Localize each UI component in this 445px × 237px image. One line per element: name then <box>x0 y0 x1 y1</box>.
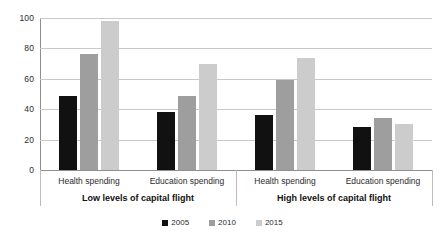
y-tick-label-0: 0 <box>4 166 34 175</box>
y-tick-label-40: 40 <box>4 105 34 114</box>
grouped-bar-chart: 100 80 60 40 20 0 Health spending Educat… <box>0 0 445 237</box>
category-label-education-high: Education spending <box>334 172 432 190</box>
chart-legend: 200520102015 <box>0 216 445 230</box>
y-tick-label-80: 80 <box>4 44 34 53</box>
legend-item-2005[interactable]: 2005 <box>162 219 189 227</box>
bar-2010 <box>374 118 392 170</box>
legend-label: 2010 <box>218 219 236 227</box>
section-labels: Low levels of capital flight High levels… <box>40 190 432 206</box>
category-label-health-high: Health spending <box>236 172 334 190</box>
bar-group <box>40 18 138 170</box>
bar-group <box>138 18 236 170</box>
bar-2010 <box>178 96 196 170</box>
legend-item-2015[interactable]: 2015 <box>256 219 283 227</box>
y-tick-label-100: 100 <box>4 14 34 23</box>
y-tick-label-60: 60 <box>4 75 34 84</box>
bar-set <box>138 18 236 170</box>
bar-2005 <box>353 127 371 170</box>
y-tick-label-20: 20 <box>4 135 34 144</box>
bar-2010 <box>276 80 294 170</box>
bar-2015 <box>297 58 315 170</box>
category-label-health-low: Health spending <box>40 172 138 190</box>
bar-set <box>334 18 432 170</box>
bar-set <box>40 18 138 170</box>
bar-groups <box>40 18 432 170</box>
legend-swatch-icon <box>209 220 215 226</box>
section-label-high-capital-flight: High levels of capital flight <box>236 190 432 206</box>
bar-set <box>236 18 334 170</box>
legend-label: 2005 <box>171 219 189 227</box>
bar-group <box>236 18 334 170</box>
category-label-education-low: Education spending <box>138 172 236 190</box>
bar-2005 <box>255 115 273 170</box>
bar-group <box>334 18 432 170</box>
bar-2005 <box>157 112 175 170</box>
legend-item-2010[interactable]: 2010 <box>209 219 236 227</box>
plot-area <box>40 18 432 170</box>
section-label-low-capital-flight: Low levels of capital flight <box>40 190 236 206</box>
bar-2010 <box>80 54 98 170</box>
bar-2005 <box>59 96 77 170</box>
y-axis-labels: 100 80 60 40 20 0 <box>0 18 34 170</box>
category-labels: Health spending Education spending Healt… <box>40 172 432 190</box>
section-divider-right <box>432 170 433 206</box>
legend-label: 2015 <box>265 219 283 227</box>
bar-2015 <box>199 64 217 170</box>
legend-swatch-icon <box>256 220 262 226</box>
legend-swatch-icon <box>162 220 168 226</box>
bar-2015 <box>395 124 413 170</box>
bar-2015 <box>101 21 119 170</box>
